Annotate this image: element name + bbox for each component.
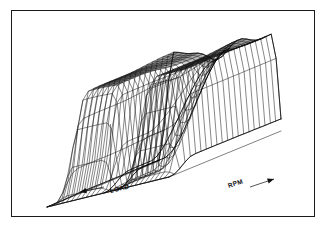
axis-arrow-rpm (250, 179, 274, 187)
plot-frame: LOAD RPM (11, 10, 315, 217)
figure-root: LOAD RPM (0, 0, 327, 229)
surface-wireframe (12, 11, 316, 218)
